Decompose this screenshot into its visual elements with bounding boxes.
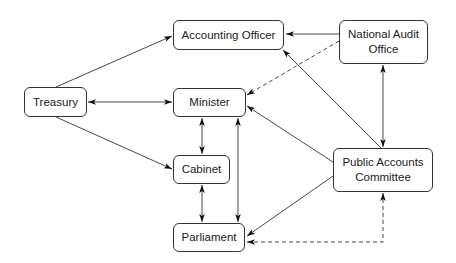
edge-pac-minister bbox=[247, 106, 333, 162]
node-label: Treasury bbox=[33, 95, 78, 110]
node-label: Minister bbox=[189, 95, 229, 110]
node-label-line1: National Audit bbox=[348, 27, 419, 42]
node-label: Accounting Officer bbox=[182, 28, 276, 43]
node-label: Cabinet bbox=[182, 162, 222, 177]
node-cabinet: Cabinet bbox=[173, 155, 230, 184]
node-parliament: Parliament bbox=[173, 223, 245, 252]
edge-treasury-accounting-officer bbox=[56, 36, 172, 87]
node-national-audit-office: National Audit Office bbox=[339, 20, 428, 64]
edge-pac-parliament bbox=[247, 176, 333, 236]
accountability-diagram: Accounting Officer National Audit Office… bbox=[0, 0, 456, 263]
node-public-accounts-committee: Public Accounts Committee bbox=[333, 148, 433, 192]
node-minister: Minister bbox=[173, 88, 246, 117]
node-treasury: Treasury bbox=[24, 87, 87, 117]
node-accounting-officer: Accounting Officer bbox=[173, 20, 284, 50]
edge-pac-accounting-officer bbox=[283, 50, 381, 148]
node-label-line2: Committee bbox=[355, 170, 411, 185]
node-label: Parliament bbox=[182, 230, 237, 245]
edge-parliament-pac-dashed bbox=[247, 193, 383, 242]
edge-treasury-cabinet bbox=[56, 117, 172, 169]
node-label-line2: Office bbox=[369, 42, 399, 57]
node-label-line1: Public Accounts bbox=[342, 155, 423, 170]
